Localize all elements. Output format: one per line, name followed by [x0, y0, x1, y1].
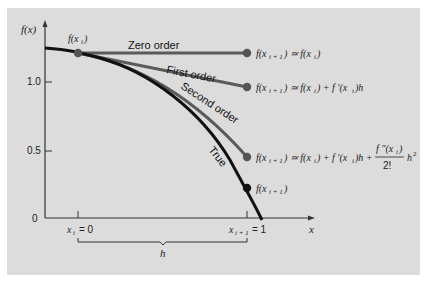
- y-axis-label: f(x): [21, 23, 37, 36]
- svg-text:i + 1: i + 1: [269, 87, 283, 95]
- svg-text:i: i: [81, 38, 83, 46]
- x-tick-right-label: x i + 1 = 1: [228, 224, 267, 237]
- y-tick-05: 0.5: [27, 145, 41, 156]
- x-axis-label: x: [308, 223, 314, 235]
- first-order-equation: f(x i + 1 ) ≃ f(x i ) + f ′(x i )h: [256, 82, 363, 95]
- point-zero-order: [243, 49, 251, 57]
- step-brace: [78, 238, 247, 245]
- svg-text:f ″(x: f ″(x: [376, 143, 394, 155]
- svg-text:i + 1: i + 1: [269, 157, 283, 165]
- svg-text:): ): [398, 143, 403, 155]
- svg-text:) ≃ f(x: ) ≃ f(x: [283, 152, 311, 164]
- svg-text:) + f ′(x: ) + f ′(x: [316, 82, 348, 94]
- svg-text:x: x: [66, 224, 72, 235]
- first-order-label: First order: [166, 63, 218, 84]
- svg-text:i: i: [352, 157, 354, 165]
- svg-text:f(x: f(x: [256, 48, 267, 60]
- svg-text:f(x: f(x: [68, 33, 79, 45]
- y-tick-0: 0: [32, 213, 38, 224]
- x-tick-left-label: x i = 0: [66, 224, 94, 237]
- svg-text:i: i: [73, 229, 75, 237]
- svg-text:i: i: [352, 87, 354, 95]
- svg-text:= 1: = 1: [252, 224, 267, 235]
- svg-text:)h +: )h +: [354, 152, 373, 164]
- svg-text:i + 1: i + 1: [235, 229, 249, 237]
- svg-text:): ): [283, 183, 288, 195]
- true-label: True: [206, 144, 229, 169]
- true-curve: [45, 48, 262, 220]
- svg-text:f(x: f(x: [256, 152, 267, 164]
- svg-text:2!: 2!: [383, 160, 391, 171]
- svg-text:): ): [316, 48, 321, 60]
- svg-text:2: 2: [413, 150, 417, 158]
- x-axis: [45, 211, 315, 221]
- start-point-label: f(x i ): [68, 33, 88, 46]
- point-second-order: [243, 153, 251, 161]
- svg-text:x: x: [228, 224, 234, 235]
- point-first-order: [243, 83, 251, 91]
- svg-text:i: i: [314, 87, 316, 95]
- true-value-label: f(x i + 1 ): [256, 183, 288, 196]
- svg-text:): ): [83, 33, 88, 45]
- svg-text:h: h: [407, 152, 412, 163]
- zero-order-equation: f(x i + 1 ) ≃ f(x i ): [256, 48, 321, 61]
- svg-text:i + 1: i + 1: [269, 188, 283, 196]
- svg-text:i: i: [314, 53, 316, 61]
- point-f-xi: [74, 49, 82, 57]
- svg-text:) ≃ f(x: ) ≃ f(x: [283, 48, 311, 60]
- svg-text:f(x: f(x: [256, 82, 267, 94]
- point-true: [243, 184, 251, 192]
- svg-text:)h: )h: [354, 82, 363, 94]
- svg-text:) ≃ f(x: ) ≃ f(x: [283, 82, 311, 94]
- second-order-equation: f(x i + 1 ) ≃ f(x i ) + f ′(x i )h + f ″…: [256, 143, 417, 171]
- svg-text:= 0: = 0: [79, 224, 94, 235]
- svg-text:i + 1: i + 1: [269, 53, 283, 61]
- svg-text:i: i: [396, 148, 398, 156]
- svg-text:) + f ′(x: ) + f ′(x: [316, 152, 348, 164]
- zero-order-label: Zero order: [128, 39, 180, 51]
- svg-text:i: i: [314, 157, 316, 165]
- svg-text:f(x: f(x: [256, 183, 267, 195]
- y-tick-1: 1.0: [27, 76, 41, 87]
- taylor-series-diagram: f(x) 1.0 0.5 0 x i = 0 x i + 1 = 1 x h f…: [0, 0, 427, 282]
- step-label-h: h: [160, 247, 166, 259]
